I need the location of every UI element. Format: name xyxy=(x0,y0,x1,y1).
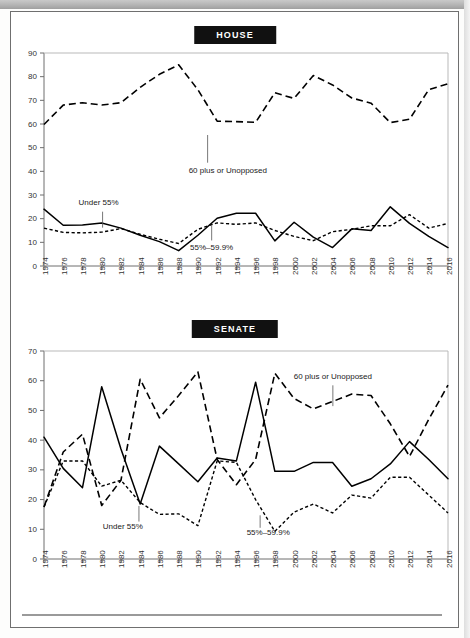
y-axis-tick-label: 70 xyxy=(28,347,37,356)
x-axis-tick-label: 2012 xyxy=(406,550,415,568)
x-axis-tick-label: 2000 xyxy=(291,257,300,275)
x-axis-tick-label: 1976 xyxy=(60,550,69,568)
axis-lines xyxy=(44,53,448,266)
x-axis-tick-label: 1992 xyxy=(214,550,223,568)
y-axis-tick-label: 50 xyxy=(28,143,37,152)
chart-senate: SENATE 010203040506070197419761978198019… xyxy=(10,316,460,612)
x-axis-tick-label: 2012 xyxy=(406,257,415,275)
house-chart-svg: 0102030405060708090197419761978198019821… xyxy=(10,47,460,312)
x-axis-tick-label: 2004 xyxy=(329,257,338,275)
page-root: HOUSE 0102030405060708090197419761978198… xyxy=(0,0,470,638)
x-axis-tick-label: 2002 xyxy=(310,550,319,568)
series-line-dashed-long xyxy=(44,372,448,507)
chart-title-senate: SENATE xyxy=(192,320,278,338)
x-axis-tick-label: 2002 xyxy=(310,257,319,275)
y-axis-tick-label: 60 xyxy=(28,376,37,385)
y-axis-tick-label: 0 xyxy=(33,262,38,271)
y-axis-tick-label: 60 xyxy=(28,120,37,129)
x-axis-tick-label: 1976 xyxy=(60,257,69,275)
plot-area-house: 0102030405060708090197419761978198019821… xyxy=(10,47,460,312)
x-axis-tick-label: 1988 xyxy=(175,550,184,568)
x-axis-tick-label: 1986 xyxy=(156,550,165,568)
y-axis-tick-label: 80 xyxy=(28,72,37,81)
x-axis-tick-label: 2006 xyxy=(348,550,357,568)
series-line-dashed-long xyxy=(44,65,448,125)
x-axis-tick-label: 2016 xyxy=(445,550,454,568)
x-axis-tick-label: 1984 xyxy=(137,550,146,568)
x-axis-tick-label: 1988 xyxy=(175,257,184,275)
x-axis-tick-label: 1980 xyxy=(98,550,107,568)
y-axis-tick-label: 50 xyxy=(28,406,37,415)
x-axis-tick-label: 1986 xyxy=(156,257,165,275)
annotation-label-range-55: 55%–59.9% xyxy=(190,243,233,252)
y-axis-tick-label: 40 xyxy=(28,436,37,445)
y-axis-tick-label: 70 xyxy=(28,96,37,105)
x-axis-tick-label: 1994 xyxy=(233,257,242,275)
x-axis-tick-label: 2004 xyxy=(329,550,338,568)
y-axis-tick-label: 10 xyxy=(28,525,37,534)
x-axis-tick-label: 1974 xyxy=(41,257,50,275)
y-axis-tick-label: 40 xyxy=(28,167,37,176)
y-axis-tick-label: 20 xyxy=(28,214,37,223)
series-line-solid xyxy=(44,207,448,251)
x-axis-tick-label: 1984 xyxy=(137,257,146,275)
x-axis-tick-label: 1996 xyxy=(252,257,261,275)
x-axis-tick-label: 1978 xyxy=(79,550,88,568)
annotation-label-sixty-plus: 60 plus or Unopposed xyxy=(189,166,267,175)
x-axis-tick-label: 2000 xyxy=(291,550,300,568)
x-axis-tick-label: 1974 xyxy=(41,550,50,568)
x-axis-tick-label: 1992 xyxy=(214,257,223,275)
senate-chart-svg: 0102030405060701974197619781980198219841… xyxy=(10,341,460,609)
y-axis-tick-label: 20 xyxy=(28,495,37,504)
x-axis-tick-label: 1980 xyxy=(98,257,107,275)
y-axis-tick-label: 90 xyxy=(28,49,37,58)
x-axis-tick-label: 1998 xyxy=(271,257,280,275)
x-axis-tick-label: 2008 xyxy=(368,550,377,568)
y-axis-tick-label: 30 xyxy=(28,465,37,474)
x-axis-tick-label: 1990 xyxy=(194,550,203,568)
x-axis-tick-label: 1998 xyxy=(271,550,280,568)
bottom-rule xyxy=(22,614,442,616)
plot-area-senate: 0102030405060701974197619781980198219841… xyxy=(10,341,460,609)
chart-title-house: HOUSE xyxy=(194,26,276,44)
x-axis-tick-label: 2016 xyxy=(445,257,454,275)
x-axis-tick-label: 2014 xyxy=(425,257,434,275)
x-axis-tick-label: 1996 xyxy=(252,550,261,568)
x-axis-tick-label: 1994 xyxy=(233,550,242,568)
page-right-edge xyxy=(464,0,470,638)
annotation-label-range-55: 55%–59.9% xyxy=(247,528,290,537)
annotation-label-under-55: Under 55% xyxy=(103,522,143,531)
x-axis-tick-label: 1982 xyxy=(117,550,126,568)
y-axis-tick-label: 0 xyxy=(33,555,38,564)
annotation-label-sixty-plus: 60 plus or Unopposed xyxy=(294,372,372,381)
top-decorative-band xyxy=(0,0,470,9)
x-axis-tick-label: 2010 xyxy=(387,550,396,568)
x-axis-tick-label: 2010 xyxy=(387,257,396,275)
x-axis-tick-label: 2014 xyxy=(425,550,434,568)
x-axis-tick-label: 1990 xyxy=(194,257,203,275)
x-axis-tick-label: 2008 xyxy=(368,257,377,275)
series-line-dashed-short xyxy=(44,215,448,244)
y-axis-tick-label: 10 xyxy=(28,238,37,247)
x-axis-tick-label: 1982 xyxy=(117,257,126,275)
chart-house: HOUSE 0102030405060708090197419761978198… xyxy=(10,16,460,316)
x-axis-tick-label: 1978 xyxy=(79,257,88,275)
y-axis-tick-label: 30 xyxy=(28,191,37,200)
x-axis-tick-label: 2006 xyxy=(348,257,357,275)
annotation-label-under-55: Under 55% xyxy=(79,198,119,207)
